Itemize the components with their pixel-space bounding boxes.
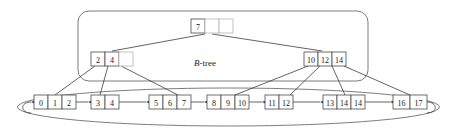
edge-internal-right-to-leaf-5	[290, 66, 320, 95]
edge-internal-left-to-leaf-2	[100, 66, 108, 95]
internal-right-cell-0-label: 10	[307, 56, 315, 65]
leaf-1-cell-1-label: 1	[53, 99, 57, 108]
leaf-node-2[interactable]: 3 4	[91, 95, 119, 109]
leaf-wrap-left	[23, 102, 31, 113]
leaf-5-cell-0-label: 11	[268, 99, 276, 108]
internal-node-left[interactable]: 2 4	[91, 52, 133, 66]
internal-node-right[interactable]: 10 12 14	[304, 52, 346, 66]
btree-label-rest: -tree	[200, 58, 216, 68]
leaf-2-cell-0-label: 3	[96, 99, 100, 108]
edge-internal-left-to-leaf-1	[55, 66, 95, 95]
leaf-1-cell-0-label: 0	[39, 99, 43, 108]
internal-left-cell-1-label: 4	[110, 56, 114, 65]
leaf-3-cell-0-label: 5	[154, 99, 158, 108]
internal-left-cell-2	[119, 52, 133, 66]
edge-group-internal-right	[235, 66, 410, 95]
btree-region-label: B-tree	[194, 58, 216, 68]
leaf-2-cell-1-label: 4	[110, 99, 114, 108]
edge-root-to-internal-right	[212, 34, 322, 51]
leaf-6-cell-0-label: 13	[326, 99, 334, 108]
leaf-node-7[interactable]: 16 17	[393, 95, 427, 109]
leaf-node-5[interactable]: 11 12	[265, 95, 293, 109]
leaf-6-cell-1-label: 14	[340, 99, 348, 108]
leaf-node-6[interactable]: 13 14 14	[323, 95, 365, 109]
internal-right-cell-1-label: 12	[321, 56, 329, 65]
edge-group-root	[112, 34, 322, 51]
edge-internal-right-to-leaf-7	[344, 66, 410, 95]
leaf-node-4[interactable]: 8 9 10	[207, 95, 249, 109]
leaf-4-cell-0-label: 8	[212, 99, 216, 108]
edge-internal-right-to-leaf-4	[235, 66, 308, 95]
edge-root-to-internal-left	[112, 34, 205, 51]
btree-canvas: 7 2 4 10 12 14 B-tree	[0, 0, 457, 130]
leaf-7-cell-0-label: 16	[398, 99, 406, 108]
leaf-4-cell-2-label: 10	[238, 99, 246, 108]
leaf-node-1[interactable]: 0 1 2	[34, 95, 76, 109]
root-node[interactable]: 7	[191, 19, 233, 33]
leaf-4-cell-1-label: 9	[226, 99, 230, 108]
leaf-node-3[interactable]: 5 6 7	[149, 95, 191, 109]
btree-diagram: 7 2 4 10 12 14 B-tree	[0, 0, 457, 130]
leaf-1-cell-2-label: 2	[67, 99, 71, 108]
leaf-5-cell-1-label: 12	[282, 99, 290, 108]
leaf-3-cell-2-label: 7	[182, 99, 186, 108]
leaf-3-cell-1-label: 6	[168, 99, 172, 108]
leaf-7-cell-1-label: 17	[415, 99, 423, 108]
internal-left-cell-0-label: 2	[96, 56, 100, 65]
internal-right-cell-2-label: 14	[335, 56, 343, 65]
root-node-cell-0-label: 7	[196, 23, 200, 32]
edge-internal-left-to-leaf-3	[121, 66, 178, 95]
root-node-cell-1	[205, 19, 219, 33]
root-node-cell-2	[219, 19, 233, 33]
leaf-6-cell-2-label: 14	[354, 99, 362, 108]
